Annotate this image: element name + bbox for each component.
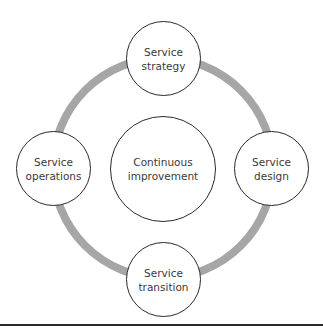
bottom-rule (0, 324, 323, 326)
node-service-transition: Service transition (126, 242, 201, 317)
node-label-strategy: Service strategy (142, 45, 186, 73)
service-lifecycle-diagram: Service strategy Service design Service … (0, 0, 323, 335)
node-service-strategy: Service strategy (126, 21, 201, 96)
center-label: Continuous improvement (128, 155, 198, 183)
node-continuous-improvement: Continuous improvement (110, 116, 216, 222)
node-label-operations: Service operations (26, 155, 82, 183)
node-label-transition: Service transition (138, 266, 188, 294)
node-service-design: Service design (234, 131, 309, 206)
node-service-operations: Service operations (16, 131, 91, 206)
node-label-design: Service design (252, 155, 291, 183)
